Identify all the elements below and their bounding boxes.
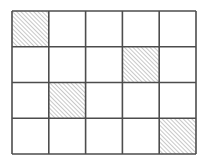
grid-diagram — [0, 0, 207, 162]
shaded-cell — [122, 47, 159, 83]
shaded-cell — [159, 118, 196, 154]
empty-cell — [86, 83, 123, 119]
empty-cell — [12, 83, 49, 119]
empty-cell — [86, 118, 123, 154]
empty-cell — [159, 83, 196, 119]
empty-cell — [122, 11, 159, 47]
shaded-cell — [49, 83, 86, 119]
empty-cell — [122, 118, 159, 154]
empty-cell — [49, 11, 86, 47]
empty-cell — [12, 47, 49, 83]
empty-cell — [49, 118, 86, 154]
empty-cell — [86, 11, 123, 47]
empty-cell — [86, 47, 123, 83]
empty-cell — [159, 47, 196, 83]
empty-cell — [159, 11, 196, 47]
shaded-cell — [12, 11, 49, 47]
empty-cell — [49, 47, 86, 83]
empty-cell — [12, 118, 49, 154]
empty-cell — [122, 83, 159, 119]
